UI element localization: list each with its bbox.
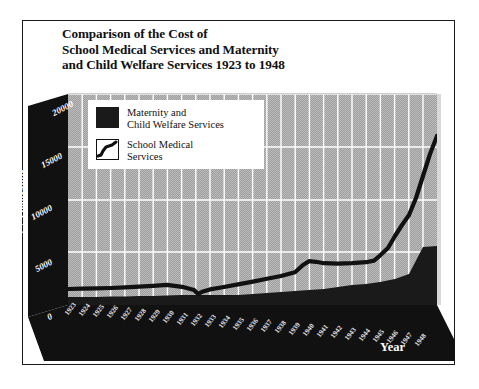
x-axis-title: Year [380, 340, 405, 355]
legend-label-line-1: Maternity and [127, 107, 186, 118]
legend-item-maternity-child-welfare: Maternity and Child Welfare Services [96, 107, 224, 130]
legend-label-line-2: Services [127, 151, 163, 162]
plot-right-edge [437, 94, 441, 305]
legend-label-line-2: Child Welfare Services [127, 119, 224, 130]
chart-title-line-2: School Medical Services and Maternity [62, 42, 392, 58]
legend-label-maternity-child-welfare: Maternity and Child Welfare Services [127, 107, 224, 130]
legend-label-school-medical: School Medical Services [127, 139, 193, 162]
chart-title-line-3: and Child Welfare Services 1923 to 1948 [62, 57, 392, 73]
chart-legend: Maternity and Child Welfare Services Sch… [88, 100, 264, 169]
legend-swatch-filled-area-icon [96, 107, 119, 128]
plot-outline-top [68, 93, 437, 94]
chart-plot-container: £ / Thousands 0 5000 10000 15000 20000 1… [22, 84, 455, 365]
legend-label-line-1: School Medical [127, 139, 193, 150]
chart-page: Comparison of the Cost of School Medical… [0, 0, 479, 389]
chart-title-line-1: Comparison of the Cost of [62, 26, 392, 42]
legend-swatch-line-icon [96, 139, 119, 160]
y-axis-title: £ / Thousands [16, 169, 27, 234]
chart-title: Comparison of the Cost of School Medical… [62, 26, 392, 73]
legend-item-school-medical: School Medical Services [96, 139, 193, 162]
